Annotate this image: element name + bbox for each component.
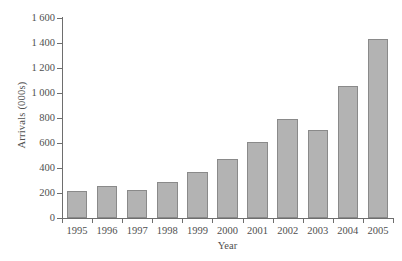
x-axis-tick-label: 2002 [273, 225, 303, 237]
y-axis-tick-label-wrap: 1 600 [0, 13, 55, 23]
x-axis-tick-label: 2005 [363, 225, 393, 237]
x-axis-tick-label: 2001 [243, 225, 273, 237]
y-axis-tick-label-wrap: 200 [0, 188, 55, 198]
bar [67, 191, 87, 219]
y-axis-tick-label: 400 [3, 163, 55, 173]
x-axis-tick [273, 218, 274, 223]
plot-area [62, 18, 393, 218]
y-axis-tick-label: 1 400 [3, 38, 55, 48]
bar [217, 159, 237, 218]
y-axis-tick-label: 1 000 [3, 88, 55, 98]
x-axis-tick-label: 1996 [92, 225, 122, 237]
bar [157, 182, 177, 218]
x-axis-tick [62, 218, 63, 223]
y-axis-tick-label: 200 [3, 188, 55, 198]
x-axis-tick [363, 218, 364, 223]
x-axis-tick-label: 1999 [182, 225, 212, 237]
x-axis-tick-label: 2004 [333, 225, 363, 237]
y-axis-tick-label-wrap: 600 [0, 138, 55, 148]
y-axis-tick-label-wrap: 800 [0, 113, 55, 123]
x-axis-tick [333, 218, 334, 223]
y-axis-tick-label-wrap: 1 000 [0, 88, 55, 98]
x-axis-tick-label: 1997 [122, 225, 152, 237]
x-axis-tick [152, 218, 153, 223]
y-axis-tick-label-wrap: 0 [0, 213, 55, 223]
x-axis-tick [393, 218, 394, 223]
y-axis-tick-label: 600 [3, 138, 55, 148]
x-axis-title: Year [62, 240, 393, 251]
bar [368, 39, 388, 218]
y-axis-tick-label: 0 [3, 213, 55, 223]
bar [308, 130, 328, 218]
x-axis-tick-label: 1995 [62, 225, 92, 237]
bar [247, 142, 267, 218]
x-axis-tick [243, 218, 244, 223]
x-axis-tick [122, 218, 123, 223]
y-axis-tick-label-wrap: 400 [0, 163, 55, 173]
bar [187, 172, 207, 218]
bar [277, 119, 297, 218]
y-axis-tick-label-wrap: 1 400 [0, 38, 55, 48]
x-axis-tick [182, 218, 183, 223]
y-axis-tick-label: 1 600 [3, 13, 55, 23]
y-axis-tick-label: 1 200 [3, 63, 55, 73]
y-axis-tick-label: 800 [3, 113, 55, 123]
bar [338, 86, 358, 219]
x-axis-tick [92, 218, 93, 223]
x-axis-tick [303, 218, 304, 223]
bar [97, 186, 117, 218]
y-axis-tick-label-wrap: 1 200 [0, 63, 55, 73]
x-axis-line [62, 218, 394, 219]
bar-chart-figure: Arrivals (000s) 02004006008001 0001 2001… [0, 0, 402, 261]
x-axis-tick-label: 2000 [212, 225, 242, 237]
bar [127, 190, 147, 218]
x-axis-tick-label: 1998 [152, 225, 182, 237]
x-axis-tick-label: 2003 [303, 225, 333, 237]
x-axis-tick [212, 218, 213, 223]
